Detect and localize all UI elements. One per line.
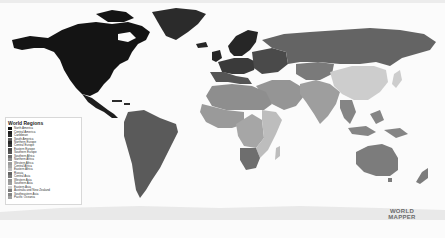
legend-item: Pacific Oceania <box>8 196 79 199</box>
legend-title: World Regions <box>8 120 79 126</box>
legend: World Regions North AmericaCentral Ameri… <box>5 117 82 205</box>
logo-line-2: MAPPER <box>378 214 426 220</box>
top-edge-strip <box>0 0 445 3</box>
legend-label: Pacific Oceania <box>14 196 35 199</box>
legend-items: North AmericaCentral AmericaCaribbeanSou… <box>8 127 79 199</box>
legend-swatch <box>8 196 12 199</box>
region-tasmania <box>388 178 392 182</box>
worldmapper-logo: WORLD MAPPER <box>378 208 426 220</box>
